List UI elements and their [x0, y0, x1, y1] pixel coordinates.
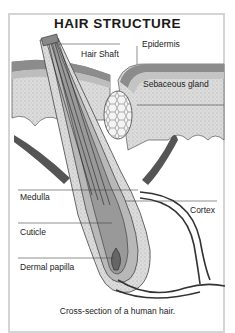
label-epidermis: Epidermis [142, 39, 180, 49]
skin-right [118, 64, 224, 150]
label-medulla: Medulla [20, 192, 50, 202]
label-cortex: Cortex [190, 205, 215, 215]
label-sebaceous-gland: Sebaceous gland [143, 79, 209, 89]
diagram-caption: Cross-section of a human hair. [0, 306, 235, 316]
arrector-muscle-left [14, 135, 70, 184]
arrector-muscle-right [142, 135, 178, 185]
sebaceous-gland [104, 91, 132, 139]
label-dermal-papilla: Dermal papilla [20, 262, 74, 272]
label-cuticle: Cuticle [20, 227, 46, 237]
label-hair-shaft: Hair Shaft [81, 49, 119, 59]
